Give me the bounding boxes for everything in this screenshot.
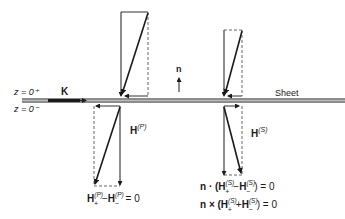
s-tangential-component-equation: n × (H(S)++H(S)−) = 0 — [200, 197, 277, 213]
sheet-label: Sheet — [275, 88, 299, 98]
h-p-label: H(P) — [130, 123, 147, 136]
h-minus-p-vector-diagram — [94, 106, 120, 186]
h-minus-s-vector-diagram — [224, 106, 242, 175]
h-plus-s-vector-diagram — [224, 30, 242, 96]
h-plus-p-vector-diagram — [121, 12, 148, 96]
current-label: K — [61, 86, 69, 97]
z-plus-label: z = 0⁺ — [13, 87, 40, 97]
normal-label: n — [176, 64, 182, 74]
s-normal-component-equation: n · (H(S)+−H(S)−) = 0 — [200, 179, 275, 195]
p-boundary-equation: H(P)+−H(P)− = 0 — [87, 191, 140, 207]
boundary-condition-diagram: K z = 0⁺ z = 0⁻ n Sheet H(P) — [0, 0, 345, 219]
h-s-label: H(S) — [251, 126, 268, 139]
z-minus-label: z = 0⁻ — [13, 104, 40, 114]
